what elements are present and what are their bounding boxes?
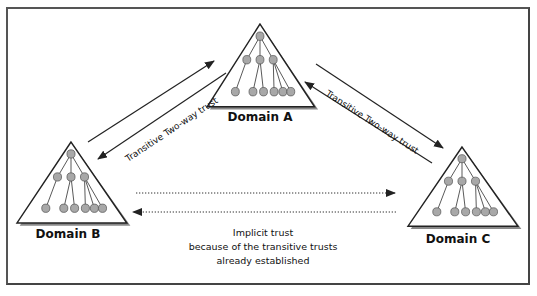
trust-diagram: Domain A Domain B Domain C Transitive Tw… bbox=[0, 0, 537, 296]
note-line-3: already established bbox=[217, 255, 310, 266]
domain-c-tree bbox=[408, 147, 521, 229]
trust-a-c-label: Transitive Two-way trust bbox=[323, 88, 421, 156]
domain-a-tree bbox=[207, 24, 318, 110]
domain-c-label: Domain C bbox=[426, 232, 491, 246]
domain-b-tree bbox=[17, 142, 130, 226]
trust-b-c bbox=[133, 193, 396, 212]
implicit-trust-note: Implicit trust because of the transitive… bbox=[189, 227, 338, 266]
domain-a-label: Domain A bbox=[228, 110, 294, 124]
note-line-1: Implicit trust bbox=[233, 227, 294, 238]
domain-b-label: Domain B bbox=[36, 227, 101, 241]
note-line-2: because of the transitive trusts bbox=[189, 241, 338, 252]
arrow-a-to-c bbox=[316, 64, 443, 148]
trust-a-b-label: Transitive Two-way trust bbox=[123, 95, 220, 164]
trust-a-c: Transitive Two-way trust bbox=[305, 64, 443, 163]
arrow-a-to-b bbox=[98, 73, 226, 159]
trust-a-b: Transitive Two-way trust bbox=[88, 61, 226, 164]
arrow-b-to-a bbox=[88, 61, 214, 142]
